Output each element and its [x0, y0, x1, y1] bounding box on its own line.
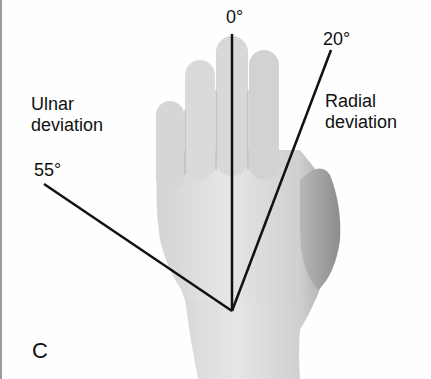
figure-panel: 0° 20° 55° Ulnar deviation Radial deviat…	[0, 0, 431, 379]
neutral-angle-label: 0°	[226, 7, 243, 28]
radial-angle-label: 20°	[323, 29, 350, 50]
ulnar-angle-label: 55°	[34, 160, 61, 181]
little-finger	[156, 101, 184, 191]
ulnar-deviation-label: Ulnar deviation	[31, 94, 103, 136]
index-finger	[249, 50, 279, 180]
ring-finger	[185, 60, 215, 180]
panel-letter: C	[32, 340, 48, 361]
hand-illustration	[0, 0, 431, 379]
radial-deviation-label: Radial deviation	[325, 91, 397, 133]
